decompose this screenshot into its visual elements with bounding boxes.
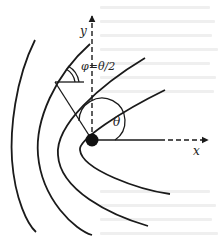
phi-relation-label: φ=θ/2 (81, 60, 115, 73)
focus-point (86, 134, 99, 147)
y-axis-label: y (79, 24, 87, 38)
parabola-2 (58, 58, 148, 226)
x-axis-label: x (193, 144, 200, 158)
parabola-outer (12, 40, 36, 232)
radius-line (55, 82, 92, 140)
parabolic-coordinates-diagram: y x θ φ=θ/2 (0, 0, 220, 248)
theta-label: θ (113, 115, 121, 129)
phi-arc-outer (68, 66, 79, 82)
